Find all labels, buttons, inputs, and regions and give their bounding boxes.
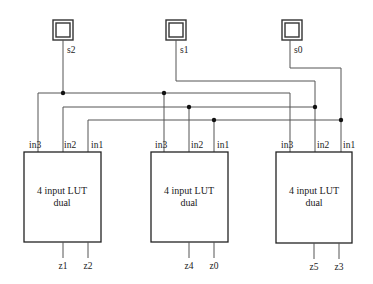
junction-dot xyxy=(313,105,317,109)
input-pad-s1: s1 xyxy=(166,20,189,55)
pin-label-in2: in2 xyxy=(317,140,329,150)
pad-inner-square xyxy=(56,23,70,37)
lut-title: 4 input LUT xyxy=(37,185,87,196)
net-s0 xyxy=(88,40,343,152)
junction-dot xyxy=(61,91,65,95)
pin-label-in1: in1 xyxy=(217,140,229,150)
lut-subtitle: dual xyxy=(53,197,70,208)
pin-label-in3: in3 xyxy=(29,140,41,150)
output-label-z5: z5 xyxy=(310,262,319,272)
lut-title: 4 input LUT xyxy=(164,185,214,196)
pad-inner-square xyxy=(169,23,183,37)
wire-s1-route xyxy=(176,40,315,152)
schematic-svg: s2 s1 s0 in3 in2 in1 4 i xyxy=(0,0,373,284)
lut-title: 4 input LUT xyxy=(289,185,339,196)
output-label-z1: z1 xyxy=(59,261,68,271)
circuit-diagram: s2 s1 s0 in3 in2 in1 4 i xyxy=(0,0,373,284)
pin-label-in1: in1 xyxy=(343,140,355,150)
junction-dot xyxy=(187,105,191,109)
junction-dot xyxy=(212,118,216,122)
input-pad-s0: s0 xyxy=(282,20,303,55)
pad-inner-square xyxy=(285,23,299,37)
pin-label-in2: in2 xyxy=(191,140,203,150)
pin-label-in3: in3 xyxy=(155,140,167,150)
lut-subtitle: dual xyxy=(180,197,197,208)
junction-dot xyxy=(162,91,166,95)
input-label-s1: s1 xyxy=(180,45,189,55)
pin-label-in3: in3 xyxy=(281,140,293,150)
pin-label-in1: in1 xyxy=(91,140,103,150)
junction-dot xyxy=(339,118,343,122)
input-label-s0: s0 xyxy=(294,45,303,55)
input-pad-s2: s2 xyxy=(53,20,76,55)
net-s2 xyxy=(38,40,290,152)
pin-label-in2: in2 xyxy=(64,140,76,150)
lut-block-c: in3 in2 in1 4 input LUT dual z5 z3 xyxy=(276,140,355,272)
lut-block-b: in3 in2 in1 4 input LUT dual z4 z0 xyxy=(151,140,229,271)
lut-block-a: in3 in2 in1 4 input LUT dual z1 z2 xyxy=(24,140,103,271)
lut-subtitle: dual xyxy=(305,197,322,208)
output-label-z0: z0 xyxy=(210,261,219,271)
output-label-z3: z3 xyxy=(335,262,344,272)
output-label-z4: z4 xyxy=(185,261,194,271)
output-label-z2: z2 xyxy=(84,261,93,271)
net-s1 xyxy=(63,40,317,152)
input-label-s2: s2 xyxy=(67,45,76,55)
